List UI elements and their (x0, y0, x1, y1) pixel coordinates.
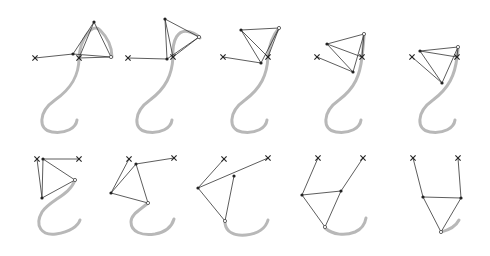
link-bar (317, 57, 353, 72)
linkage-panel-10 (410, 155, 462, 233)
linkage-panel-3 (220, 26, 280, 132)
linkage-panel-8 (196, 155, 270, 235)
anchor-x-icon (315, 155, 320, 160)
link-bar (128, 58, 167, 59)
joint-dot (40, 196, 43, 199)
link-bar (42, 159, 43, 198)
anchor-x-icon (221, 156, 226, 161)
link-bar (327, 44, 353, 72)
link-bar (241, 28, 279, 30)
joint-dot (339, 189, 342, 192)
joint-dot (351, 70, 354, 73)
link-bar (302, 158, 318, 195)
joint-dot (163, 17, 166, 20)
traced-curve (232, 28, 279, 132)
link-bar (327, 44, 362, 57)
link-bar (73, 22, 94, 54)
link-bar (37, 159, 42, 198)
link-bar (420, 51, 457, 57)
link-bar (43, 159, 75, 180)
link-bar (341, 158, 363, 191)
link-bar (79, 22, 94, 58)
joint-dot (232, 174, 235, 177)
linkage-panel-9 (300, 155, 366, 234)
link-bar (111, 193, 148, 203)
joint-dot (92, 20, 95, 23)
link-bar (198, 188, 225, 221)
link-bar (35, 54, 73, 58)
link-bar (327, 34, 364, 44)
link-bar (136, 164, 148, 203)
link-bar (79, 57, 111, 58)
joint-dot (71, 52, 74, 55)
linkage-panel-4 (314, 32, 365, 132)
link-bar (223, 57, 261, 63)
joint-dot (109, 191, 112, 194)
end-effector-dot (109, 55, 112, 58)
end-effector-dot (277, 26, 280, 29)
link-bar (423, 197, 461, 198)
anchor-x-icon (265, 155, 270, 160)
end-effector-dot (439, 230, 442, 233)
link-bar (423, 197, 441, 232)
link-bar (165, 19, 199, 37)
link-bar (302, 195, 325, 227)
joint-dot (165, 57, 168, 60)
linkage-panel-2 (125, 17, 200, 132)
traced-curve (225, 220, 268, 235)
traced-curve (137, 31, 200, 132)
link-bar (198, 159, 224, 188)
traced-curve (42, 28, 112, 132)
joint-dot (259, 61, 262, 64)
end-effector-dot (146, 201, 149, 204)
traced-curve (131, 203, 174, 235)
end-effector-dot (197, 35, 200, 38)
joint-dot (421, 195, 424, 198)
anchor-x-icon (409, 54, 414, 59)
joint-dot (41, 157, 44, 160)
joint-dot (418, 49, 421, 52)
end-effector-dot (223, 219, 226, 222)
joint-dot (196, 186, 199, 189)
anchor-x-icon (360, 155, 365, 160)
anchor-x-icon (314, 54, 319, 59)
link-bar (136, 158, 174, 164)
joint-dot (239, 28, 242, 31)
linkage-diagram (0, 0, 490, 256)
linkage-panel-7 (109, 155, 176, 234)
link-bar (225, 176, 234, 221)
link-bar (302, 191, 341, 195)
link-bar (261, 28, 279, 63)
traced-curve (325, 218, 366, 234)
link-bar (325, 191, 341, 227)
link-bar (198, 158, 268, 188)
end-effector-dot (73, 178, 76, 181)
linkage-panel-5 (409, 45, 459, 132)
traced-curve (441, 220, 459, 232)
link-bar (173, 37, 199, 57)
link-bar (420, 47, 458, 51)
anchor-x-icon (126, 156, 131, 161)
end-effector-dot (362, 32, 365, 35)
linkage-panel-1 (32, 20, 112, 132)
anchor-x-icon (410, 155, 415, 160)
joint-dot (134, 162, 137, 165)
end-effector-dot (456, 45, 459, 48)
joint-dot (440, 81, 443, 84)
link-bar (111, 164, 136, 193)
link-bar (413, 158, 423, 197)
end-effector-dot (323, 225, 326, 228)
joint-dot (325, 42, 328, 45)
linkage-panel-6 (34, 156, 81, 234)
joint-dot (300, 193, 303, 196)
joint-dot (459, 196, 462, 199)
link-bar (458, 158, 461, 198)
link-bar (111, 159, 129, 193)
